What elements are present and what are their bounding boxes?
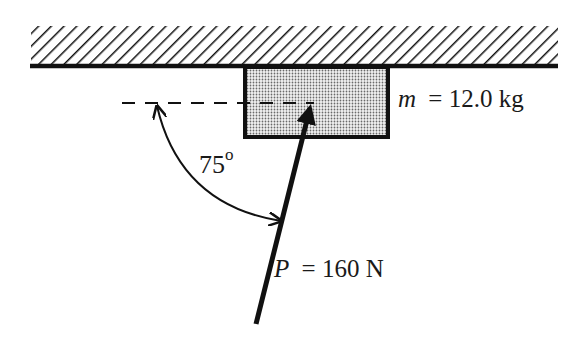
degree-symbol: o	[225, 145, 234, 164]
force-vector-P	[256, 108, 310, 324]
angle-value: 75	[199, 150, 225, 179]
diagram-canvas: m = 12.0 kg 75o P = 160 N	[0, 0, 581, 348]
ceiling	[30, 26, 558, 66]
ceiling-hatch	[31, 26, 558, 64]
mass-symbol: m	[398, 85, 416, 112]
mass-value: = 12.0 kg	[428, 85, 523, 112]
force-label: P = 160 N	[274, 255, 384, 283]
force-symbol: P	[274, 255, 289, 282]
angle-label: 75o	[199, 148, 234, 180]
diagram-svg	[0, 0, 581, 348]
mass-label: m = 12.0 kg	[398, 85, 524, 113]
force-value: = 160 N	[302, 255, 384, 282]
